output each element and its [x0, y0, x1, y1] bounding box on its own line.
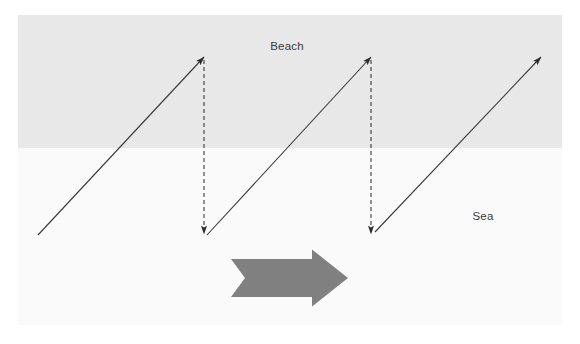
- diagram-canvas: Beach Sea: [0, 0, 580, 344]
- zone-beach-rect: [18, 15, 562, 148]
- zone-label-sea: Sea: [472, 210, 493, 222]
- diagram-svg: Beach Sea: [0, 0, 580, 344]
- zone-sea-rect: [18, 148, 562, 325]
- zone-label-beach: Beach: [270, 40, 304, 52]
